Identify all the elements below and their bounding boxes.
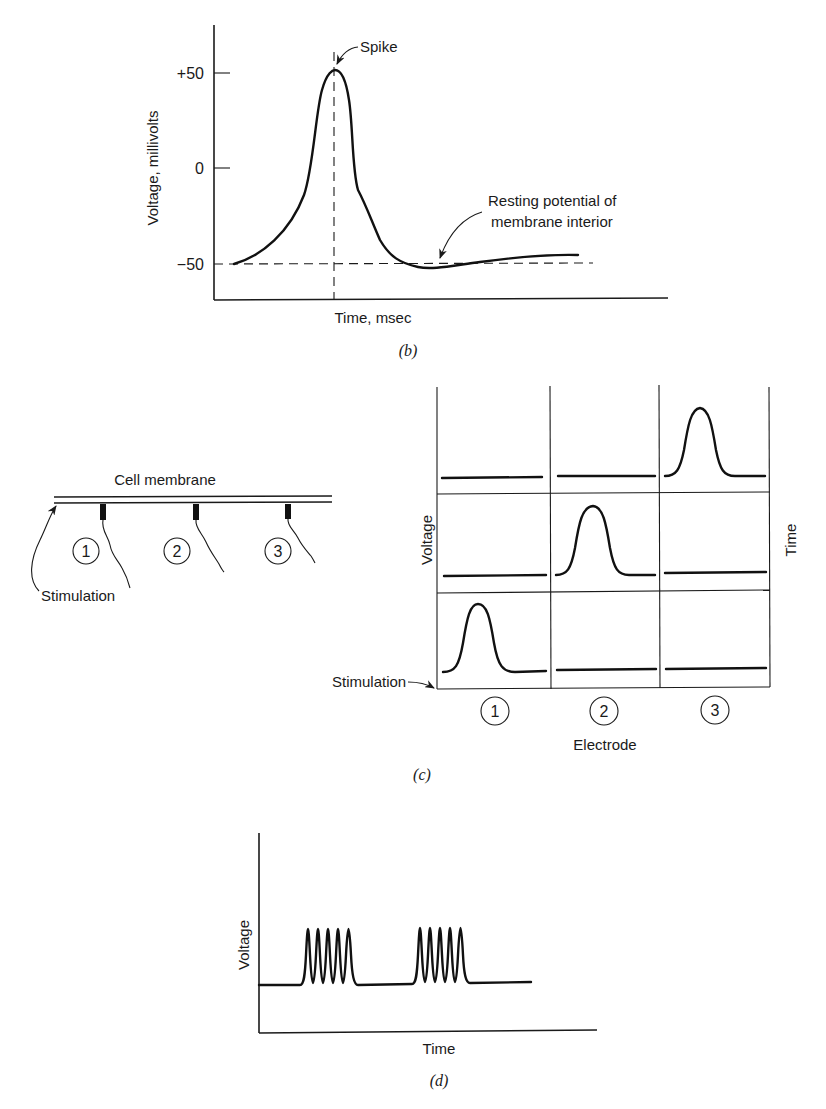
trace-r1-e1 <box>442 477 542 478</box>
stimulation-arrow-icon <box>32 506 56 591</box>
ytick-label-0: 0 <box>195 160 204 177</box>
electrode-2-number: 2 <box>173 543 182 560</box>
spike-label: Spike <box>360 38 398 55</box>
x-axis-label: Time, msec <box>335 309 412 326</box>
resting-arrow-icon <box>440 212 482 258</box>
grid-electrode-axis-label: Electrode <box>573 736 636 753</box>
electrode-1: 1 <box>73 504 130 588</box>
panel-d-burst-firing: Voltage Time (d) <box>235 833 597 1090</box>
grid-electrode-3-number: 3 <box>711 702 720 719</box>
grid-hline-1 <box>437 492 770 494</box>
grid-vline-2 <box>659 385 660 688</box>
membrane-inner-line <box>54 502 332 503</box>
grid-time-label: Time <box>782 524 799 557</box>
grid-hline-bottom <box>437 687 770 689</box>
y-axis-label: Voltage, millivolts <box>144 110 161 225</box>
figure-canvas: +50 0 −50 Voltage, millivolts Time, msec… <box>0 0 826 1109</box>
caption-c: (c) <box>413 766 431 784</box>
ytick-label-plus50: +50 <box>177 65 204 82</box>
caption-d: (d) <box>430 1072 449 1090</box>
trace-r3-e3 <box>666 668 766 669</box>
spike-arrow-icon <box>337 47 358 64</box>
caption-b: (b) <box>399 342 418 360</box>
electrode-3: 3 <box>265 504 315 564</box>
resting-label-line1: Resting potential of <box>488 192 617 209</box>
grid-electrode-2-number: 2 <box>600 703 609 720</box>
electrode-1-number: 1 <box>82 543 91 560</box>
d-x-axis-label: Time <box>423 1040 456 1057</box>
membrane-outer-line <box>54 496 332 497</box>
trace-r1-e3-spike <box>665 408 765 476</box>
electrode-3-number: 3 <box>274 543 283 560</box>
x-axis <box>214 298 668 300</box>
grid-hline-2 <box>437 590 770 593</box>
trace-r2-e3 <box>665 572 766 573</box>
panel-c-membrane-diagram: Cell membrane 1 2 3 Stimulation <box>32 471 332 604</box>
panel-b-action-potential: +50 0 −50 Voltage, millivolts Time, msec… <box>144 25 668 360</box>
d-x-axis <box>259 1030 597 1033</box>
grid-vline-3 <box>769 387 770 687</box>
d-burst-trace <box>259 928 531 985</box>
grid-voltage-label: Voltage <box>418 515 435 565</box>
trace-r3-e1-spike <box>443 604 546 672</box>
electrode-2: 2 <box>164 504 224 572</box>
stimulation-label: Stimulation <box>41 587 115 604</box>
resting-label-line2: membrane interior <box>491 213 613 230</box>
grid-stimulation-arrow-icon <box>408 682 434 688</box>
ytick-label-minus50: −50 <box>177 256 204 273</box>
panel-c-electrode-grid: Voltage Time Stimulation 1 2 3 Electrode <box>332 385 799 753</box>
d-y-axis-label: Voltage <box>235 920 252 970</box>
cell-membrane-label: Cell membrane <box>114 471 216 488</box>
grid-stimulation-label: Stimulation <box>332 673 406 690</box>
grid-vline-1 <box>550 386 551 689</box>
action-potential-curve <box>234 70 578 268</box>
grid-electrode-1-number: 1 <box>491 703 500 720</box>
trace-r2-e2-spike <box>556 506 655 575</box>
trace-r2-e1 <box>444 575 546 576</box>
trace-r3-e2 <box>557 669 656 670</box>
